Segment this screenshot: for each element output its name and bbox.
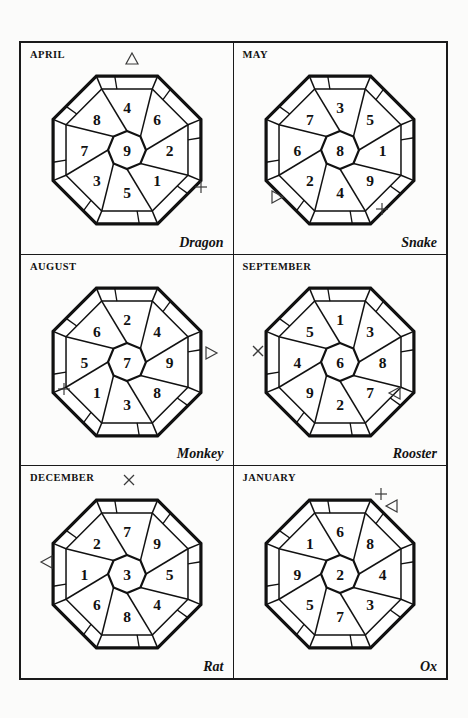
sector-number-sw: 1	[93, 384, 101, 401]
sector-number-n: 6	[336, 523, 344, 540]
sector-number-e: 8	[379, 353, 387, 370]
octagon-diagram: 351942678	[256, 66, 424, 234]
sector-number-s: 8	[123, 608, 131, 625]
month-cell-december: DECEMBERRat795486123	[21, 466, 234, 678]
octagon-diagram: 684375912	[256, 490, 424, 658]
magic-square-octagon: 684375912	[256, 490, 424, 658]
sector-number-w: 1	[80, 566, 88, 583]
month-cell-may: MAYSnake351942678	[234, 43, 447, 255]
sector-number-n: 1	[336, 311, 344, 328]
sector-number-e: 9	[166, 353, 174, 370]
month-cell-april: APRILDragon462153789	[21, 43, 234, 255]
sector-number-s: 4	[336, 185, 344, 202]
chart-page-frame: APRILDragon462153789MAYSnake351942678AUG…	[19, 41, 448, 680]
magic-square-octagon: 462153789	[43, 66, 211, 234]
sector-number-n: 3	[336, 99, 344, 116]
sector-number-n: 7	[123, 523, 131, 540]
magic-square-octagon: 795486123	[43, 490, 211, 658]
month-label: AUGUST	[30, 261, 76, 272]
center-number: 6	[336, 353, 344, 370]
zodiac-label: Rat	[203, 659, 223, 675]
sector-number-s: 5	[123, 185, 131, 202]
octagon-diagram: 462153789	[43, 66, 211, 234]
zodiac-label: Rooster	[393, 446, 437, 462]
sector-number-ne: 3	[366, 323, 374, 340]
sector-number-n: 2	[123, 311, 131, 328]
sector-number-ne: 4	[153, 323, 161, 340]
sector-number-n: 4	[123, 99, 131, 116]
sector-number-se: 3	[366, 596, 374, 613]
sector-number-nw: 2	[93, 535, 101, 552]
sector-number-w: 9	[293, 566, 301, 583]
sector-number-sw: 5	[306, 596, 314, 613]
month-label: JANUARY	[243, 472, 297, 483]
triangle-up-icon	[124, 51, 140, 67]
sector-number-sw: 3	[93, 172, 101, 189]
sector-number-e: 5	[166, 566, 174, 583]
octagon-diagram: 138729456	[256, 278, 424, 446]
sector-number-ne: 6	[153, 112, 161, 129]
center-number: 9	[123, 142, 131, 159]
sector-number-se: 4	[153, 596, 161, 613]
sector-number-sw: 2	[306, 172, 314, 189]
sector-number-e: 2	[166, 142, 174, 159]
sector-number-se: 1	[153, 172, 161, 189]
month-label: APRIL	[30, 49, 65, 60]
sector-number-s: 3	[123, 396, 131, 413]
month-label: SEPTEMBER	[243, 261, 312, 272]
center-number: 3	[123, 566, 131, 583]
magic-square-octagon: 351942678	[256, 66, 424, 234]
sector-number-e: 4	[379, 566, 387, 583]
sector-number-w: 5	[80, 353, 88, 370]
month-cell-august: AUGUSTMonkey249831567	[21, 255, 234, 467]
sector-number-s: 2	[336, 396, 344, 413]
center-number: 2	[336, 566, 344, 583]
sector-number-w: 7	[80, 142, 88, 159]
magic-square-octagon: 138729456	[256, 278, 424, 446]
sector-number-s: 7	[336, 608, 344, 625]
octagon-diagram: 249831567	[43, 278, 211, 446]
month-cell-september: SEPTEMBERRooster138729456	[234, 255, 447, 467]
month-label: DECEMBER	[30, 472, 94, 483]
zodiac-label: Ox	[420, 659, 437, 675]
zodiac-label: Dragon	[179, 235, 223, 251]
sector-number-nw: 6	[93, 323, 101, 340]
sector-number-nw: 7	[306, 112, 314, 129]
octagon-diagram: 795486123	[43, 490, 211, 658]
sector-number-w: 4	[293, 353, 301, 370]
zodiac-label: Snake	[401, 235, 437, 251]
sector-number-nw: 5	[306, 323, 314, 340]
sector-number-ne: 8	[366, 535, 374, 552]
sector-number-nw: 8	[93, 112, 101, 129]
sector-number-sw: 6	[93, 596, 101, 613]
sector-number-w: 6	[293, 142, 301, 159]
center-number: 8	[336, 142, 344, 159]
sector-number-e: 1	[379, 142, 387, 159]
zodiac-label: Monkey	[177, 446, 224, 462]
magic-square-octagon: 249831567	[43, 278, 211, 446]
sector-number-ne: 5	[366, 112, 374, 129]
sector-number-ne: 9	[153, 535, 161, 552]
month-label: MAY	[243, 49, 268, 60]
month-cell-january: JANUARYOx684375912	[234, 466, 447, 678]
sector-number-sw: 9	[306, 384, 314, 401]
times-icon	[121, 472, 137, 488]
sector-number-nw: 1	[306, 535, 314, 552]
sector-number-se: 9	[366, 172, 374, 189]
center-number: 7	[123, 353, 131, 370]
sector-number-se: 8	[153, 384, 161, 401]
sector-number-se: 7	[366, 384, 374, 401]
